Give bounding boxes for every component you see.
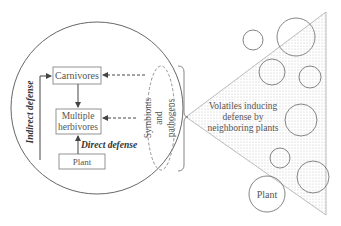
neighbor-plant-circle bbox=[243, 30, 263, 50]
indirect-defense-label: Indirect defense bbox=[25, 80, 35, 145]
outer-plant-label: Plant bbox=[257, 189, 278, 200]
inner-plant-label: Plant bbox=[73, 157, 92, 167]
symbionts-label-3: pathogens bbox=[166, 98, 176, 137]
carnivores-label: Carnivores bbox=[55, 70, 99, 81]
direct-defense-label: Direct defense bbox=[80, 140, 138, 150]
herbivores-label-1: Multiple bbox=[62, 111, 95, 121]
volatiles-label-2: defense by bbox=[223, 112, 264, 122]
bracket bbox=[178, 66, 188, 171]
symbionts-label-1: Symbionts bbox=[143, 97, 153, 138]
herbivores-label-2: herbivores bbox=[58, 122, 98, 132]
diagram-canvas: Plant Volatiles inducing defense by neig… bbox=[0, 0, 341, 226]
symbionts-label-2: and bbox=[154, 111, 164, 125]
volatiles-label-1: Volatiles inducing bbox=[209, 101, 278, 111]
arrow-plant-to-carnivores bbox=[40, 76, 51, 160]
volatiles-label-3: neighboring plants bbox=[208, 123, 279, 133]
